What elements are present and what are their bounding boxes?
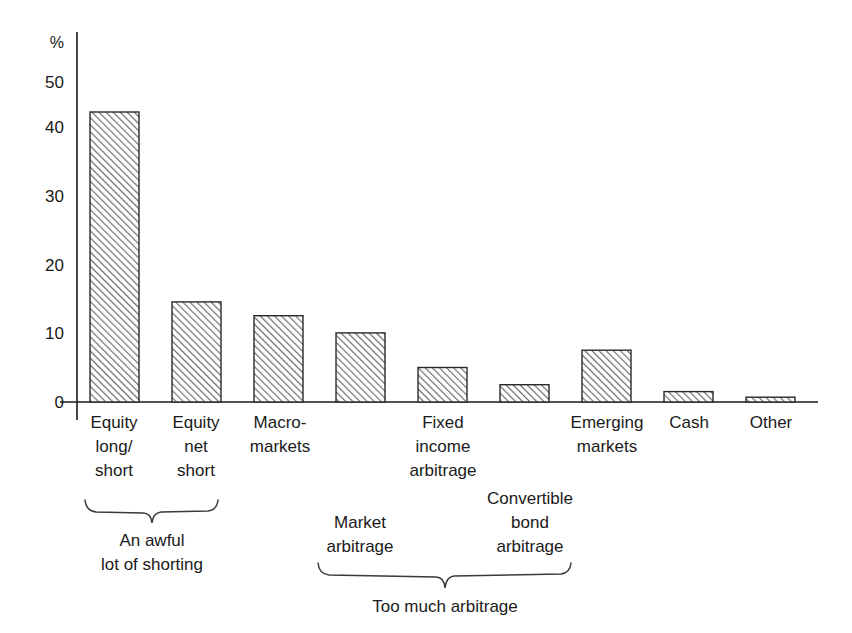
bar-cash bbox=[664, 392, 713, 402]
category-label-equity-long-short: Equity long/ short bbox=[90, 413, 138, 480]
annot-line-3: arbitrage bbox=[496, 537, 563, 556]
category-label-cash: Cash bbox=[669, 413, 709, 432]
cat-line-1: Fixed bbox=[422, 413, 464, 432]
bar-equity-long-short bbox=[90, 112, 139, 402]
annot-line-1: Convertible bbox=[487, 489, 573, 508]
bar-market-arbitrage bbox=[336, 333, 385, 402]
y-tick-label-0: 0 bbox=[55, 393, 64, 412]
cat-line-3: short bbox=[95, 461, 133, 480]
cat-line-3: arbitrage bbox=[409, 461, 476, 480]
y-tick-label-20: 20 bbox=[45, 256, 64, 275]
bar-convertible-bond-arbitrage bbox=[500, 385, 549, 402]
bar-macro-markets bbox=[254, 316, 303, 402]
bar-chart-figure: % 50 40 30 20 10 0 Equity long/ short Eq… bbox=[0, 0, 852, 633]
y-tick-label-50: 50 bbox=[45, 73, 64, 92]
cat-line-2: income bbox=[416, 437, 471, 456]
cat-line-2: long/ bbox=[96, 437, 133, 456]
category-label-fixed-income-arbitrage: Fixed income arbitrage bbox=[409, 413, 476, 480]
category-label-other: Other bbox=[750, 413, 793, 432]
bar-equity-net-short bbox=[172, 302, 221, 402]
annotation-convertible-bond-arbitrage: Convertible bond arbitrage bbox=[487, 489, 573, 556]
y-tick-label-10: 10 bbox=[45, 324, 64, 343]
cat-line-1: Emerging bbox=[571, 413, 644, 432]
brace-shorting-label-line-2: lot of shorting bbox=[101, 555, 203, 574]
bar-emerging-markets bbox=[582, 350, 631, 402]
cat-line-1: Macro- bbox=[254, 413, 307, 432]
cat-line-2: net bbox=[184, 437, 208, 456]
brace-shorting-label-line-1: An awful bbox=[119, 531, 184, 550]
annot-line-2: bond bbox=[511, 513, 549, 532]
annot-line-2: arbitrage bbox=[326, 537, 393, 556]
category-label-equity-net-short: Equity net short bbox=[172, 413, 220, 480]
bar-fixed-income-arbitrage bbox=[418, 368, 467, 403]
cat-line-2: markets bbox=[250, 437, 310, 456]
brace-arbitrage bbox=[318, 563, 571, 588]
category-label-macro-markets: Macro- markets bbox=[250, 413, 310, 456]
cat-line-1: Equity bbox=[172, 413, 220, 432]
annotation-market-arbitrage: Market arbitrage bbox=[326, 513, 393, 556]
bar-other bbox=[746, 397, 795, 402]
brace-shorting bbox=[85, 500, 218, 523]
category-label-emerging-markets: Emerging markets bbox=[571, 413, 644, 456]
brace-arbitrage-label: Too much arbitrage bbox=[372, 597, 518, 616]
y-tick-label-40: 40 bbox=[45, 118, 64, 137]
cat-line-3: short bbox=[177, 461, 215, 480]
cat-line-2: markets bbox=[577, 437, 637, 456]
chart-container: % 50 40 30 20 10 0 Equity long/ short Eq… bbox=[0, 0, 852, 633]
y-tick-label-30: 30 bbox=[45, 187, 64, 206]
y-axis-unit-label: % bbox=[50, 34, 64, 51]
cat-line-1: Equity bbox=[90, 413, 138, 432]
annot-line-1: Market bbox=[334, 513, 386, 532]
